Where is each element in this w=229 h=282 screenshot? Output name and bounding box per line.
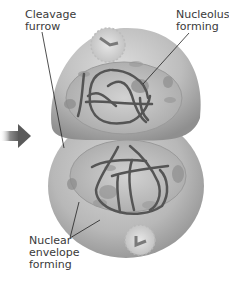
arrow-right-icon — [0, 124, 31, 148]
centrosome-top — [91, 28, 125, 62]
cleavage-furrow-label: Cleavage furrow — [25, 9, 76, 33]
nucleolus-forming-label: Nucleolus forming — [176, 9, 229, 33]
nuclear-envelope-forming-label: Nuclear envelope forming — [29, 235, 80, 271]
nucleolus-bottom — [99, 185, 117, 199]
cell-division-diagram: Cleavage furrow Nucleolus forming Nuclea… — [0, 0, 229, 282]
centrosome-bottom — [125, 225, 155, 255]
